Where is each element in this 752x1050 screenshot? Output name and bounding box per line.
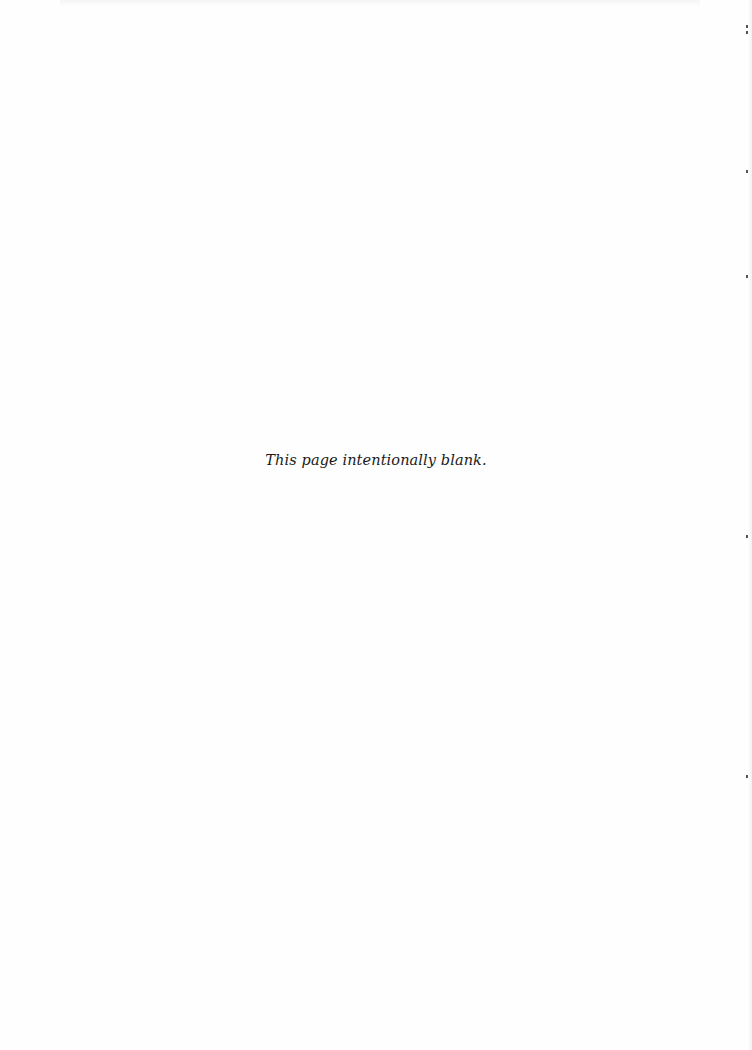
scan-artifact bbox=[746, 535, 748, 538]
scan-artifact bbox=[746, 170, 748, 173]
scan-artifact bbox=[746, 775, 748, 778]
scan-artifact bbox=[746, 25, 748, 28]
document-page: This page intentionally blank. bbox=[0, 0, 752, 1050]
scan-artifact bbox=[746, 31, 748, 34]
scan-artifact bbox=[746, 275, 748, 278]
page-edge-shadow bbox=[748, 0, 752, 1050]
intentionally-blank-notice: This page intentionally blank. bbox=[0, 452, 752, 468]
scan-bleed-through bbox=[60, 0, 700, 6]
